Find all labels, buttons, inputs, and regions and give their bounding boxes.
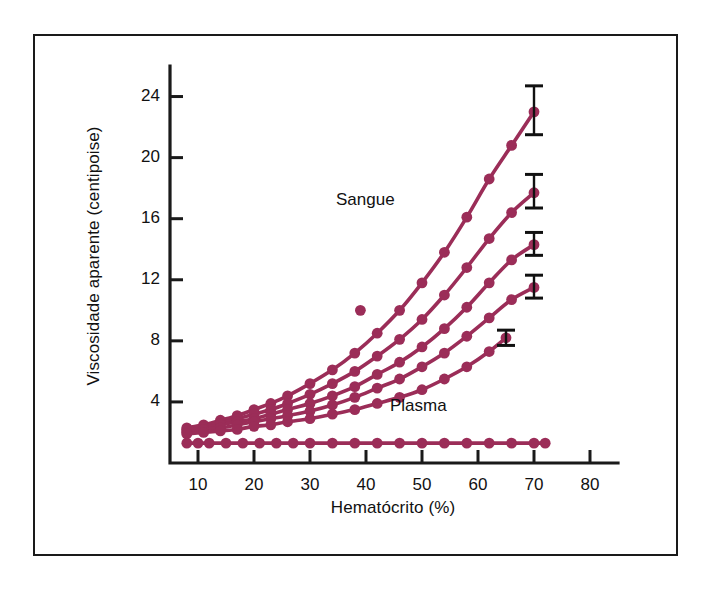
x-tick-label: 80	[568, 475, 612, 495]
data-series	[181, 438, 550, 449]
y-tick-label: 20	[118, 147, 160, 167]
y-tick-label: 16	[118, 208, 160, 228]
y-tick-label: 8	[118, 330, 160, 350]
x-tick-label: 70	[512, 475, 556, 495]
x-tick-label: 60	[456, 475, 500, 495]
y-tick-label: 4	[118, 391, 160, 411]
outlier-point	[355, 305, 366, 316]
x-tick-label: 50	[400, 475, 444, 495]
x-tick-label: 30	[288, 475, 332, 495]
error-bar	[525, 86, 543, 135]
y-tick-label: 24	[118, 86, 160, 106]
annotation-sangue: Sangue	[336, 190, 395, 210]
error-bar	[525, 232, 543, 255]
data-series-group	[181, 106, 550, 448]
figure-container: 48121620241020304050607080 Hematócrito (…	[0, 0, 713, 590]
y-axis-title: Viscosidade aparente (centipoise)	[84, 96, 104, 416]
x-tick-label: 10	[176, 475, 220, 495]
error-bar	[525, 174, 543, 208]
x-tick-label: 20	[232, 475, 276, 495]
outlier-points-group	[355, 305, 366, 316]
annotation-plasma: Plasma	[390, 396, 447, 416]
x-axis-title: Hematócrito (%)	[168, 498, 618, 518]
error-bar	[525, 275, 543, 298]
x-tick-label: 40	[344, 475, 388, 495]
y-tick-label: 12	[118, 269, 160, 289]
